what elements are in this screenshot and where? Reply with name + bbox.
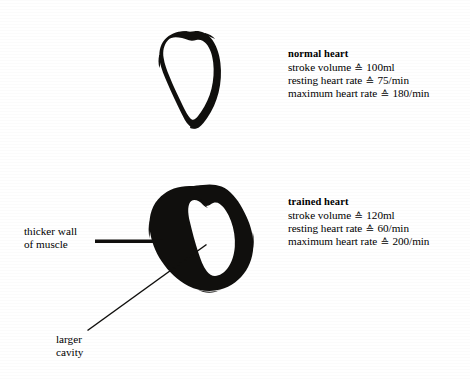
- corresponds-to-icon: ≙: [365, 223, 375, 235]
- normal-stat-row: resting heart rate ≙ 75/min: [288, 74, 429, 87]
- stat-value: 100ml: [366, 61, 394, 73]
- callout-thicker-wall: thicker wall of muscle: [24, 225, 77, 251]
- stat-value: 120ml: [366, 209, 394, 221]
- callout-line: larger: [56, 333, 83, 346]
- trained-stat-row: stroke volume ≙ 120ml: [288, 209, 429, 222]
- callout-line: cavity: [56, 346, 83, 359]
- corresponds-to-icon: ≙: [354, 210, 364, 222]
- callout-line: of muscle: [24, 238, 77, 251]
- normal-stat-row: stroke volume ≙ 100ml: [288, 61, 429, 74]
- normal-stat-row: maximum heart rate ≙ 180/min: [288, 87, 429, 100]
- stat-label: resting heart rate: [288, 222, 362, 234]
- trained-heart-title: trained heart: [288, 196, 429, 208]
- stat-label: maximum heart rate: [288, 87, 377, 99]
- leader-line-larger-cavity: [88, 245, 207, 331]
- stat-label: stroke volume: [288, 61, 351, 73]
- stat-value: 75/min: [378, 74, 409, 86]
- stat-value: 180/min: [392, 87, 429, 99]
- normal-heart-shape: [159, 31, 221, 129]
- corresponds-to-icon: ≙: [365, 75, 375, 87]
- stat-value: 60/min: [378, 222, 409, 234]
- stat-value: 200/min: [392, 235, 429, 247]
- corresponds-to-icon: ≙: [380, 88, 390, 100]
- stat-label: resting heart rate: [288, 74, 362, 86]
- corresponds-to-icon: ≙: [354, 62, 364, 74]
- normal-heart-stats: normal heart stroke volume ≙ 100ml resti…: [288, 48, 429, 100]
- corresponds-to-icon: ≙: [380, 236, 390, 248]
- trained-stat-row: resting heart rate ≙ 60/min: [288, 222, 429, 235]
- normal-heart-title: normal heart: [288, 48, 429, 60]
- trained-stat-row: maximum heart rate ≙ 200/min: [288, 235, 429, 248]
- callout-larger-cavity: larger cavity: [56, 333, 83, 359]
- stat-label: maximum heart rate: [288, 235, 377, 247]
- callout-line: thicker wall: [24, 225, 77, 238]
- stat-label: stroke volume: [288, 209, 351, 221]
- trained-heart-shape: [149, 184, 254, 292]
- heart-comparison-figure: normal heart stroke volume ≙ 100ml resti…: [0, 0, 470, 379]
- trained-heart-stats: trained heart stroke volume ≙ 120ml rest…: [288, 196, 429, 248]
